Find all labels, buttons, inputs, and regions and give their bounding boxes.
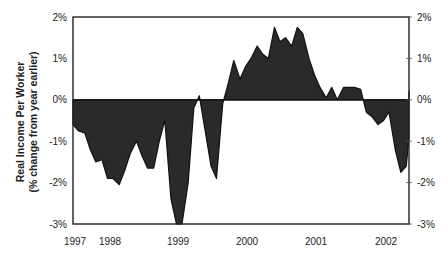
x-tick-label: 2001 bbox=[305, 236, 328, 247]
plot-area bbox=[73, 17, 409, 224]
x-tick-label: 2002 bbox=[375, 236, 398, 247]
y-axis-right: 2%1%0%-1%-2%-3% bbox=[406, 12, 435, 230]
y-tick-label-right: -3% bbox=[417, 219, 435, 230]
y-tick-label-left: 0% bbox=[53, 94, 68, 105]
y-tick-label-left: -2% bbox=[49, 177, 67, 188]
y-tick-label-left: -1% bbox=[49, 136, 67, 147]
y-tick-label-right: 0% bbox=[417, 94, 432, 105]
income-chart: 2%1%0%-1%-2%-3% 2%1%0%-1%-2%-3% 19971998… bbox=[0, 0, 448, 258]
y-tick-label-left: 2% bbox=[53, 12, 68, 23]
x-tick-label: 2000 bbox=[236, 236, 259, 247]
y-tick-label-right: 2% bbox=[417, 12, 432, 23]
y-axis-title-line2: (% change from year earlier) bbox=[27, 51, 39, 192]
y-axis-left: 2%1%0%-1%-2%-3% bbox=[49, 12, 67, 230]
y-axis-title-line1: Real Income Per Worker bbox=[14, 62, 26, 183]
y-tick-label-left: -3% bbox=[49, 219, 67, 230]
x-tick-label: 1998 bbox=[99, 236, 122, 247]
y-tick-label-right: 1% bbox=[417, 53, 432, 64]
x-axis: 199719981999200020012002 bbox=[64, 236, 398, 247]
y-tick-label-right: -2% bbox=[417, 177, 435, 188]
x-tick-label: 1999 bbox=[167, 236, 190, 247]
y-axis-title: Real Income Per Worker (% change from ye… bbox=[14, 51, 39, 192]
data-area bbox=[73, 27, 409, 224]
y-tick-label-left: 1% bbox=[53, 53, 68, 64]
y-tick-label-right: -1% bbox=[417, 136, 435, 147]
x-tick-label: 1997 bbox=[64, 236, 87, 247]
